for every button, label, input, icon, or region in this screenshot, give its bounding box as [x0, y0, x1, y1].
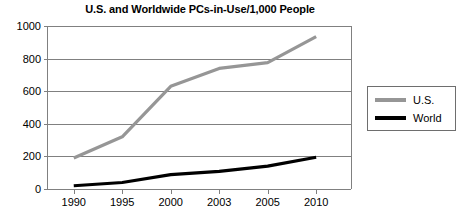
series-line-u-s — [74, 37, 316, 158]
chart-legend: U.S. World — [367, 86, 456, 131]
y-tick-label-400: 400 — [23, 118, 41, 129]
x-tick-label-2000: 2000 — [158, 197, 182, 208]
series-line-world — [74, 157, 316, 186]
x-tick-mark-2000 — [171, 189, 172, 194]
chart-title: U.S. and Worldwide PCs-in-Use/1,000 Peop… — [35, 3, 365, 15]
series-lines — [48, 26, 351, 189]
y-tick-mark-0 — [44, 189, 48, 190]
x-tick-label-2010: 2010 — [304, 197, 328, 208]
x-tick-label-1995: 1995 — [110, 197, 134, 208]
x-tick-label-2003: 2003 — [207, 197, 231, 208]
x-tick-mark-2003 — [219, 189, 220, 194]
legend-label-world: World — [413, 113, 442, 124]
legend-item-us: U.S. — [375, 93, 434, 107]
x-tick-mark-1990 — [74, 189, 75, 194]
legend-label-us: U.S. — [413, 95, 434, 106]
x-tick-mark-2010 — [316, 189, 317, 194]
x-tick-label-2005: 2005 — [255, 197, 279, 208]
x-tick-mark-2005 — [268, 189, 269, 194]
legend-swatch-world — [375, 116, 406, 120]
y-tick-label-600: 600 — [23, 86, 41, 97]
x-tick-mark-1995 — [122, 189, 123, 194]
legend-swatch-us — [375, 98, 406, 102]
x-tick-label-1990: 1990 — [62, 197, 86, 208]
y-tick-label-0: 0 — [35, 184, 41, 195]
gridline-0 — [48, 189, 351, 190]
legend-item-world: World — [375, 111, 442, 125]
plot-area: 02004006008001000 1990199520002003200520… — [47, 26, 352, 189]
y-tick-label-1000: 1000 — [17, 21, 41, 32]
chart-figure: U.S. and Worldwide PCs-in-Use/1,000 Peop… — [0, 0, 470, 221]
y-tick-label-200: 200 — [23, 151, 41, 162]
y-tick-label-800: 800 — [23, 53, 41, 64]
